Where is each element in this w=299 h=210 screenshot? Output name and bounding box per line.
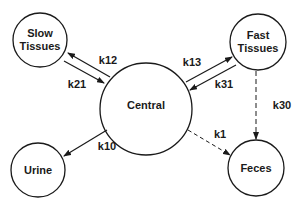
label-k1: k1 [212,128,228,141]
label-slow-line2: Tissues [13,40,67,53]
label-slow-tissues: Slow Tissues [13,27,67,53]
label-central: Central [116,99,176,112]
label-k31: k31 [213,78,235,91]
label-k10: k10 [96,140,118,153]
label-urine: Urine [11,164,65,177]
label-k13: k13 [181,56,203,69]
label-fast-line2: Tissues [230,42,286,55]
label-k12: k12 [97,54,119,67]
label-fast-line1: Fast [230,29,286,42]
label-feces: Feces [228,162,284,175]
label-k30: k30 [271,99,293,112]
label-slow-line1: Slow [13,27,67,40]
label-fast-tissues: Fast Tissues [230,29,286,55]
label-k21: k21 [66,78,88,91]
